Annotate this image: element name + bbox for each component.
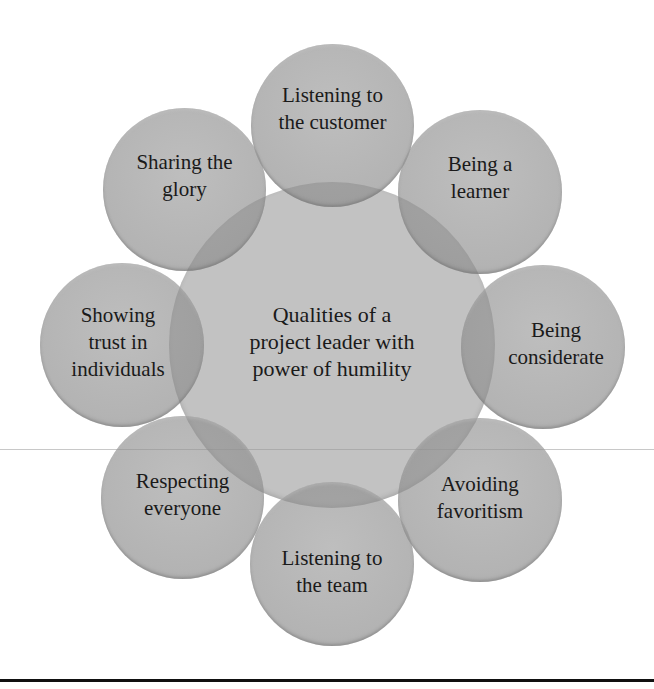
humility-qualities-diagram: Qualities of a project leader with power… bbox=[0, 0, 654, 689]
satellite-circle-avoiding-favoritism: Avoiding favoritism bbox=[398, 418, 562, 582]
satellite-circle-respecting-everyone: Respecting everyone bbox=[101, 416, 264, 579]
satellite-label: Listening to the customer bbox=[279, 82, 387, 136]
bottom-rule bbox=[0, 679, 654, 682]
satellite-label: Showing trust in individuals bbox=[71, 302, 164, 383]
satellite-label: Respecting everyone bbox=[136, 468, 229, 522]
satellite-label: Being a learner bbox=[448, 151, 513, 205]
satellite-label: Avoiding favoritism bbox=[437, 471, 523, 525]
satellite-circle-listening-customer: Listening to the customer bbox=[251, 44, 414, 207]
satellite-label: Listening to the team bbox=[282, 545, 383, 599]
satellite-circle-sharing-glory: Sharing the glory bbox=[103, 108, 266, 271]
satellite-circle-being-considerate: Being considerate bbox=[461, 265, 625, 429]
satellite-label: Being considerate bbox=[508, 317, 604, 371]
center-label: Qualities of a project leader with power… bbox=[250, 301, 415, 382]
satellite-label: Sharing the glory bbox=[136, 149, 232, 203]
satellite-circle-showing-trust: Showing trust in individuals bbox=[40, 263, 204, 427]
satellite-circle-being-learner: Being a learner bbox=[398, 110, 562, 274]
satellite-circle-listening-team: Listening to the team bbox=[250, 482, 414, 646]
